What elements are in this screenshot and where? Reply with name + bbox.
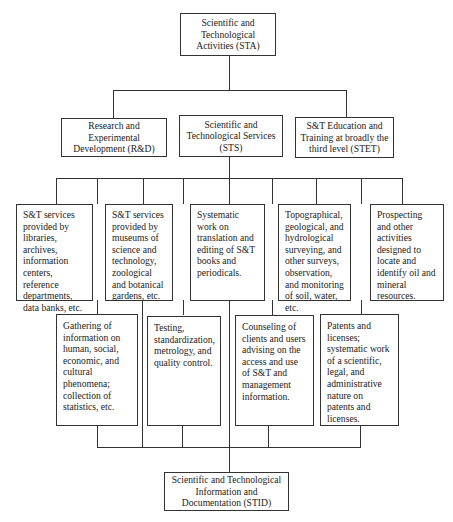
node-testing: Testing, standardization, metrology, and… — [147, 316, 221, 426]
connector-through — [183, 300, 184, 315]
connector-drop — [316, 178, 317, 204]
node-stid: Scientific and Technological Information… — [164, 472, 289, 511]
connector-up — [360, 425, 361, 448]
connector-sts-down — [229, 156, 230, 179]
connector-root-down — [229, 55, 230, 91]
connector-to-rd — [113, 90, 114, 118]
node-libraries: S&T services provided by libraries, arch… — [16, 204, 93, 301]
connector-bottom-bus — [97, 447, 361, 448]
node-label: S&T Education and Training at broadly th… — [300, 120, 389, 155]
node-label: Scientific and Technological Information… — [169, 474, 284, 509]
node-gathering: Gathering of information on human, socia… — [56, 314, 138, 426]
connector-drop — [402, 178, 403, 204]
node-sta: Scientific and Technological Activities … — [180, 13, 276, 56]
connector-drop — [229, 178, 230, 204]
connector-through — [97, 178, 98, 204]
connector-through — [97, 300, 98, 315]
node-counseling: Counseling of clients and users advising… — [235, 315, 314, 426]
connector-through — [272, 300, 273, 315]
node-label: Gathering of information on human, socia… — [63, 320, 120, 412]
connector-through — [183, 178, 184, 204]
node-label: Systematic work on translation and editi… — [197, 209, 255, 278]
node-label: Patents and licenses; systematic work of… — [327, 320, 390, 424]
connector-to-stet — [346, 90, 347, 117]
node-label: Testing, standardization, metrology, and… — [154, 322, 215, 368]
node-stet: S&T Education and Training at broadly th… — [295, 117, 394, 158]
node-label: Scientific and Technological Services (S… — [184, 119, 278, 154]
connector-drop — [143, 178, 144, 204]
node-surveying: Topographical, geological, and hydrologi… — [278, 204, 351, 301]
node-museums: S&T services provided by museums of scie… — [105, 204, 173, 301]
connector-up — [97, 425, 98, 448]
node-label: S&T services provided by museums of scie… — [112, 209, 164, 301]
connector-level2-bus — [113, 90, 347, 91]
node-sts: Scientific and Technological Services (S… — [179, 115, 283, 157]
node-prospecting: Prospecting and other activities designe… — [370, 204, 444, 301]
node-label: Topographical, geological, and hydrologi… — [285, 209, 344, 313]
node-label: Scientific and Technological Activities … — [185, 17, 271, 52]
node-translation: Systematic work on translation and editi… — [190, 204, 265, 301]
connector-up — [182, 425, 183, 448]
connector-down — [142, 300, 143, 448]
connector-through — [272, 178, 273, 204]
connector-through — [361, 178, 362, 204]
connector-up — [268, 425, 269, 448]
connector-through — [361, 300, 362, 315]
node-label: Counseling of clients and users advising… — [242, 321, 305, 402]
connector-drop — [56, 178, 57, 204]
node-label: S&T services provided by libraries, arch… — [23, 209, 82, 313]
node-label: Prospecting and other activities designe… — [377, 209, 436, 301]
node-rd: Research and Experimental Development (R… — [61, 118, 167, 157]
node-label: Research and Experimental Development (R… — [66, 120, 162, 155]
node-patents: Patents and licenses; systematic work of… — [320, 314, 399, 426]
